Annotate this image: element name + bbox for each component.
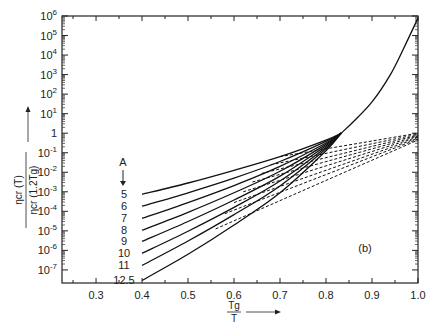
series-line [341, 18, 418, 133]
x-axis-label-denominator: T [231, 313, 237, 324]
series-dashed-line [216, 140, 418, 229]
y-tick-label: 10-2 [38, 164, 58, 178]
y-axis-label-numerator: ηcr (T) [13, 175, 24, 204]
x-tick-label: 0.9 [364, 289, 379, 301]
y-tick-label: 1 [51, 127, 57, 139]
legend-entry: 5 [121, 188, 127, 200]
legend-entry: 7 [121, 212, 127, 224]
legend-entry: 9 [121, 235, 127, 247]
y-tick-label: 10-5 [38, 223, 58, 237]
y-tick-label: 10-3 [38, 184, 58, 198]
legend-title: A [119, 156, 127, 168]
x-tick-label: 0.7 [272, 289, 287, 301]
legend-entry: 12.5 [113, 274, 134, 286]
arrow-right-icon [275, 310, 281, 315]
y-axis-label: ηcr (T)ηcr (1.2Tg) [13, 106, 39, 228]
y-axis: 106105104103102101110-110-210-310-410-51… [38, 8, 418, 276]
arrow-up-icon [26, 106, 31, 112]
y-tick-label: 10-4 [38, 203, 58, 217]
y-tick-label: 104 [40, 47, 57, 61]
series-dashed-line [280, 133, 418, 156]
x-axis-label-numerator: Tg [228, 300, 240, 311]
panel-label: (b) [358, 242, 371, 254]
series-line [142, 133, 341, 206]
x-tick-label: 1.0 [410, 289, 425, 301]
legend-entry: 10 [118, 247, 130, 259]
x-tick-label: 0.4 [134, 289, 149, 301]
y-tick-label: 106 [40, 8, 57, 22]
x-tick-label: 0.5 [180, 289, 195, 301]
legend-entry: 11 [118, 259, 129, 271]
y-tick-label: 10-6 [38, 242, 58, 256]
plot-lines [142, 18, 418, 281]
series-dashed-line [252, 136, 418, 182]
chart: 0.30.40.50.60.70.80.91.0 106105104103102… [0, 0, 438, 331]
legend-entry: 6 [121, 200, 127, 212]
y-tick-label: 101 [40, 106, 57, 120]
series-line [142, 133, 341, 194]
x-tick-label: 0.8 [318, 289, 333, 301]
y-axis-label-denominator: ηcr (1.2Tg) [28, 166, 39, 215]
arrow-down-icon [120, 181, 126, 186]
y-tick-label: 105 [40, 28, 57, 42]
y-tick-label: 10-7 [38, 262, 58, 276]
x-tick-label: 0.3 [88, 289, 103, 301]
y-tick-label: 103 [40, 67, 57, 81]
y-tick-label: 10-1 [38, 145, 58, 159]
y-tick-label: 102 [40, 86, 57, 100]
